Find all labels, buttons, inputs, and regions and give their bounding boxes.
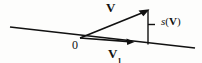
vector-v1-label: V1: [108, 47, 121, 63]
vector-v1-base-label: V: [108, 46, 117, 61]
vector-v-shaft: [80, 12, 146, 39]
figure-canvas: [0, 0, 202, 63]
vector-v1-subscript-label: 1: [117, 57, 121, 63]
s-argument-vector-v: V: [169, 15, 177, 27]
baseline-axis: [10, 27, 195, 48]
s-of-v-label: s(V): [161, 16, 181, 27]
origin-label: 0: [72, 39, 78, 51]
s-close-paren: ): [177, 15, 181, 27]
vector-v-label: V: [106, 1, 115, 14]
vector-decomposition-figure: V V1 0 s(V): [0, 0, 202, 63]
vector-v1-arrowhead: [127, 39, 135, 46]
